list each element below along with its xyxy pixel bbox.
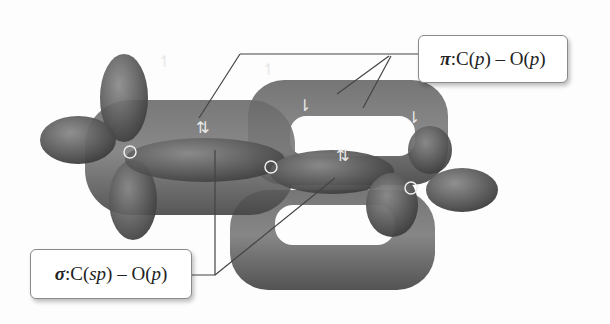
spin-pair-arrow: ⇅ [336,146,349,165]
sigma-bond-label: σ: C(sp) – O(p) [30,249,192,299]
pi-bond-label: π: C(p) – O(p) [418,35,568,83]
spin-up-arrow: ↿ [262,60,275,79]
spin-pair-arrow: ⇅ [196,118,209,137]
o2-lobe-up [408,126,452,174]
co2-orbital-diagram: π: C(p) – O(p) σ: C(sp) – O(p) ↿ ⇅ ↿ ⇂ ⇅… [0,0,610,324]
spin-down-arrow: ⇂ [298,96,311,115]
sigma-bond-left [125,138,285,182]
pi-symbol: π [440,48,450,70]
o2-lobe-right [426,168,498,212]
spin-down-arrow: ⇂ [407,108,420,127]
o-lobe-left [40,116,116,164]
spin-up-arrow: ↿ [158,52,171,71]
sigma-symbol: σ [55,263,65,285]
